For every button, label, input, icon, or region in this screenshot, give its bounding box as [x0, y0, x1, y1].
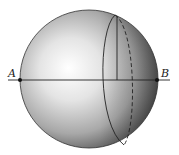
sphere-diagram: A B — [0, 0, 179, 155]
label-b: B — [160, 67, 169, 80]
point-a-dot — [18, 78, 22, 82]
point-b-dot — [155, 78, 159, 82]
label-a: A — [7, 67, 16, 80]
